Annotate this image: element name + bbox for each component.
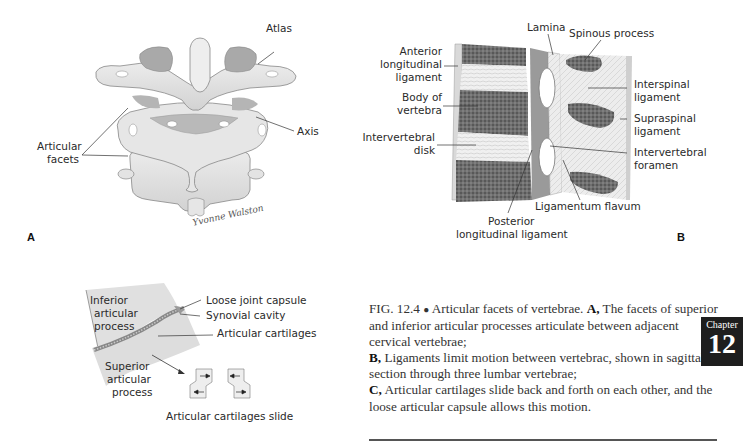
label-body-of-vertebra-1: Body of	[370, 91, 442, 104]
label-inferior-articular-process-1: Inferior	[90, 294, 128, 307]
label-supraspinal-ligament-2: ligament	[634, 125, 680, 138]
figure-number: FIG. 12.4	[369, 301, 420, 316]
caption-label-a: A,	[587, 301, 600, 316]
label-spinous-process: Spinous process	[569, 27, 654, 40]
label-superior-articular-process-2: articular	[107, 373, 151, 386]
label-ligamentum-flavum: Ligamentum flavum	[535, 200, 641, 213]
caption-label-b: B,	[369, 350, 381, 365]
synovial-joint-illustration	[0, 0, 330, 443]
chapter-tab-number: 12	[701, 330, 743, 358]
label-intervertebral-disk-1: Intervertebral	[360, 131, 435, 144]
label-articular-cartilages-slide: Articular cartilages slide	[166, 410, 293, 423]
label-synovial-cavity: Synovial cavity	[206, 309, 285, 322]
label-intervertebral-disk-2: disk	[360, 144, 435, 157]
figure-caption: FIG. 12.4 ● Articular facets of vertebra…	[369, 301, 723, 415]
chapter-tab: Chapter 12	[701, 317, 743, 366]
caption-title: Articular facets of vertebrae.	[432, 301, 584, 316]
caption-divider	[369, 439, 717, 441]
bullet-icon: ●	[423, 304, 429, 315]
caption-label-c: C,	[369, 382, 382, 397]
label-posterior-longitudinal-ligament-2: longitudinal ligament	[456, 228, 568, 241]
caption-text-b: Ligaments limit motion between vertebrac…	[369, 350, 704, 381]
label-loose-joint-capsule: Loose joint capsule	[206, 294, 307, 307]
label-inferior-articular-process-2: articular	[94, 307, 138, 320]
panel-letter-b: B	[677, 231, 685, 243]
label-supraspinal-ligament-1: Supraspinal	[634, 112, 696, 125]
label-superior-articular-process-3: process	[112, 386, 152, 399]
label-anterior-longitudinal-ligament-2: longitudinal	[370, 58, 442, 71]
caption-text-c: Articular cartilages slide back and fort…	[369, 382, 712, 413]
label-inferior-articular-process-3: process	[94, 320, 134, 333]
label-intervertebral-foramen-1: Intervertebral	[634, 146, 707, 159]
label-anterior-longitudinal-ligament-3: ligament	[370, 71, 442, 84]
label-body-of-vertebra-2: vertebra	[370, 104, 442, 117]
label-interspinal-ligament-2: ligament	[634, 91, 680, 104]
label-lamina: Lamina	[527, 21, 566, 34]
label-posterior-longitudinal-ligament-1: Posterior	[488, 215, 534, 228]
label-articular-cartilages: Articular cartilages	[217, 327, 316, 340]
label-anterior-longitudinal-ligament-1: Anterior	[370, 45, 442, 58]
label-superior-articular-process-1: Superior	[105, 360, 149, 373]
label-interspinal-ligament-1: Interspinal	[634, 78, 690, 91]
label-intervertebral-foramen-2: foramen	[634, 159, 678, 172]
